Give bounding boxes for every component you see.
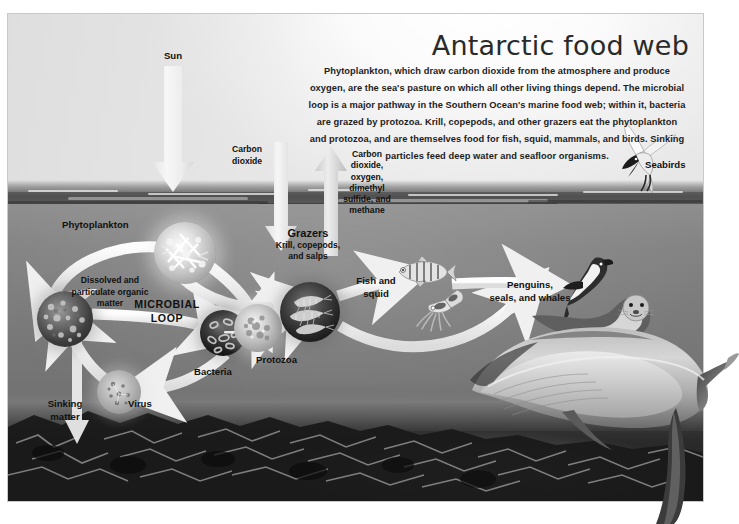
krill-icon	[280, 282, 340, 342]
figure-title: Antarctic food web	[432, 30, 689, 61]
label-predators: Penguins, seals, and whales	[480, 279, 580, 304]
downward-arrow-icon	[151, 66, 195, 196]
figure-root: Sun Carbon dioxide Carbon dioxide, oxyge…	[0, 0, 739, 524]
label-protozoa: Protozoa	[256, 354, 297, 366]
label-fish-and-squid: Fish and squid	[345, 275, 407, 300]
label-virus: Virus	[128, 398, 152, 410]
label-grazers: Grazers	[270, 227, 346, 239]
squid	[413, 286, 467, 332]
sinking-matter-arrow	[64, 334, 90, 446]
label-sun: Sun	[138, 50, 208, 62]
sun-arrow	[151, 66, 195, 196]
squid-icon	[413, 286, 467, 332]
illustration-panel: Sun Carbon dioxide Carbon dioxide, oxyge…	[8, 14, 703, 501]
label-bacteria: Bacteria	[194, 366, 232, 378]
downward-arrow-icon	[64, 334, 90, 446]
label-phytoplankton: Phytoplankton	[62, 219, 129, 231]
protozoa-icon	[234, 304, 282, 352]
label-microbial-loop: MICROBIAL LOOP	[126, 297, 208, 325]
label-grazers-detail: Krill, copepods, and salps	[262, 240, 354, 262]
figure-intro-paragraph: Phytoplankton, which draw carbon dioxide…	[308, 63, 686, 166]
label-sinking-matter: Sinking matter	[34, 398, 96, 423]
label-carbon-dioxide-in: Carbon dioxide	[232, 143, 292, 167]
grazers-blob	[280, 282, 340, 342]
protozoa-blob	[234, 304, 282, 352]
